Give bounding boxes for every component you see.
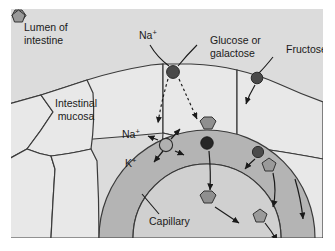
na-apical-leader xyxy=(150,45,169,66)
glut5-apical-transporter xyxy=(251,72,263,84)
lumen-of-intestine-label: Lumen of intestine xyxy=(24,21,68,46)
fructose-label: Fructose xyxy=(286,43,323,56)
potassium-pump-label: K+ xyxy=(125,157,136,170)
cell-lower-left-2 xyxy=(51,149,99,238)
intestinal-mucosa-label: Intestinal mucosa xyxy=(55,97,97,122)
sodium-apical-label: Na+ xyxy=(139,29,157,42)
absorption-diagram-figure: Lumen of intestine Intestinal mucosa Na+… xyxy=(0,0,335,251)
sodium-pump-label: Na+ xyxy=(122,128,140,141)
na-pump-side-arrow-left xyxy=(148,136,158,140)
glucose-apical-leader xyxy=(178,45,197,66)
pentagon-icon xyxy=(11,9,26,23)
glut2-basolateral-transporter xyxy=(201,137,213,149)
sglt1-apical-cotransporter xyxy=(167,66,180,79)
glut5-basolateral-transporter xyxy=(252,146,263,157)
glucose-or-galactose-label: Glucose or galactose xyxy=(210,34,288,60)
capillary-label: Capillary xyxy=(149,215,190,228)
diagram-panel: Lumen of intestine Intestinal mucosa Na+… xyxy=(11,9,323,238)
cell-lower-left-1 xyxy=(11,149,55,238)
na-k-atpase-pump xyxy=(159,138,172,151)
